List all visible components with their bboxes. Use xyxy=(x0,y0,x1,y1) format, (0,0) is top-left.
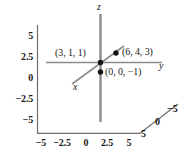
tick-label-left-0: 0 xyxy=(6,73,33,83)
tick-label-left-neg2point5: −2.5 xyxy=(4,94,33,104)
point-label-6-4-3: (6, 4, 3) xyxy=(122,47,153,57)
point-marker-0-0-neg1 xyxy=(98,69,103,74)
tick-label-depth-5: 5 xyxy=(141,129,146,139)
tick-label-bottom-0: 0 xyxy=(78,138,94,148)
x-axis-label: x xyxy=(73,82,77,92)
coordinate-axes xyxy=(46,14,162,122)
tick-label-left-neg5: −5 xyxy=(4,115,33,125)
tick-label-bottom-5: 5 xyxy=(121,138,137,148)
tick-label-left-5: 5 xyxy=(6,31,33,41)
point-label-3-1-1: (3, 1, 1) xyxy=(55,48,86,58)
tick-label-depth-0: 0 xyxy=(155,117,160,127)
tick-label-bottom-2point5: 2.5 xyxy=(95,138,119,148)
point-marker-origin-3-1-1 xyxy=(98,60,103,65)
z-axis-label: z xyxy=(97,2,101,12)
y-axis-label: y xyxy=(159,61,163,71)
point-marker-6-4-3 xyxy=(113,50,118,55)
tick-label-depth-neg5: −5 xyxy=(167,104,178,114)
point-label-0-0-neg1: (0, 0, −1) xyxy=(105,67,141,77)
tick-label-left-2point5: 2.5 xyxy=(6,52,33,62)
three-d-scatter-figure: z y x 5 2.5 0 −2.5 −5 −5 −2.5 0 2.5 5 5 … xyxy=(0,0,184,152)
tick-label-bottom-neg2point5: −2.5 xyxy=(49,138,75,148)
